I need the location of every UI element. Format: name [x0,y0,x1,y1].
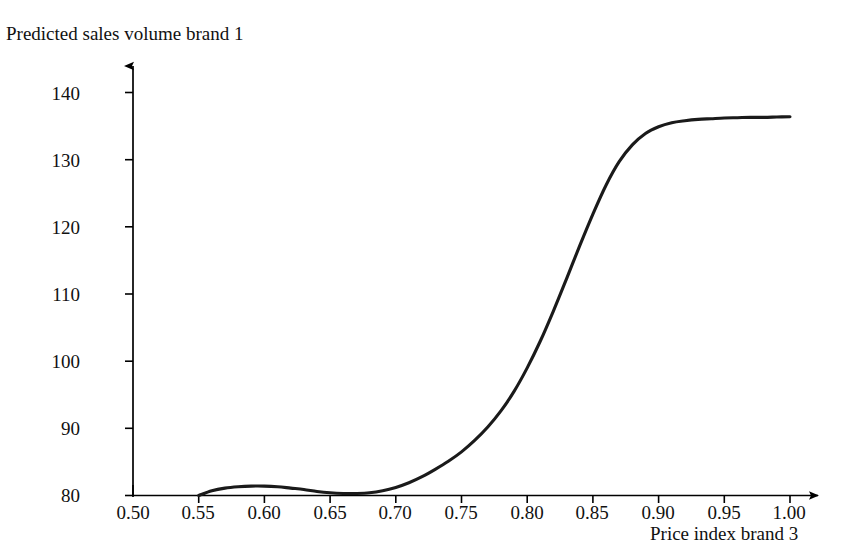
data-series-line [199,117,790,496]
y-tick-marks [125,93,133,496]
plot-area [0,0,851,555]
chart-figure: Predicted sales volume brand 1 Price ind… [0,0,851,555]
